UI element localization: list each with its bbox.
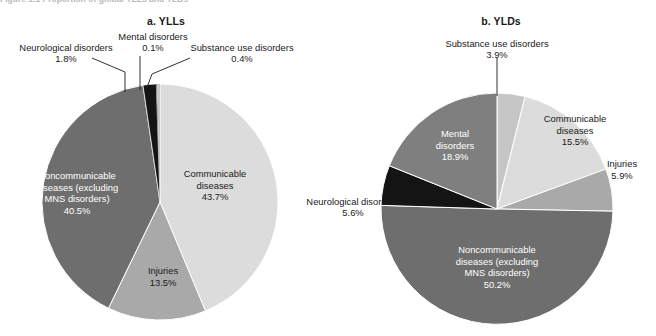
slice-label-line: Injuries [118,265,208,277]
slice-label-line: diseases (excluding [14,182,140,194]
slice-label-line: 18.9% [417,151,493,163]
callout-line: 1.8% [2,53,130,64]
slice-label-line: disorders [417,140,493,152]
callout-line: Substance use disorders [430,38,564,49]
slice-label-line: diseases [523,125,627,137]
slice-label-yld-mental: Mental disorders 18.9% [417,128,493,163]
callout-line: 3.9% [430,49,564,60]
panel-a-title: a. YLLs [96,15,236,27]
callout-line: Mental disorders [109,31,197,42]
slice-label-line: Communicable [160,168,270,180]
figure-caption-clipped: Figure 1.1 Proportion of global YLLs and… [0,0,430,4]
callout-line: Substance use disorders [176,42,308,53]
slice-label-line: 13.5% [118,277,208,289]
slice-label-line: Noncommunicable [434,244,560,256]
slice-label-line: 5.9% [592,170,652,182]
slice-label-line: 43.7% [160,191,270,203]
callout-line: 0.4% [176,53,308,64]
slice-label-yld-injuries: Injuries 5.9% [592,158,652,181]
slice-label-line: Noncommunicable [14,170,140,182]
slice-label-yll-injuries: Injuries 13.5% [118,265,208,288]
callout-yld-substance: Substance use disorders 3.9% [430,38,564,61]
slice-label-yll-noncommunicable: Noncommunicable diseases (excluding MNS … [14,170,140,216]
slice-label-line: Communicable [523,113,627,125]
callout-yll-substance: Substance use disorders 0.4% [176,42,308,65]
slice-label-line: Injuries [592,158,652,170]
slice-label-yld-communicable: Communicable diseases 15.5% [523,113,627,148]
panel-b-title: b. YLDs [446,15,556,27]
slice-label-line: diseases (excluding [434,256,560,268]
callout-line: Neurological disorders [289,196,417,207]
slice-label-yll-communicable: Communicable diseases 43.7% [160,168,270,203]
slice-label-line: Mental [417,128,493,140]
slice-label-line: diseases [160,180,270,192]
slice-label-line: 15.5% [523,136,627,148]
slice-label-line: MNS disorders) [434,267,560,279]
slice-label-line: MNS disorders) [14,193,140,205]
callout-yld-neurological: Neurological disorders 5.6% [289,196,417,219]
slice-label-yld-noncommunicable: Noncommunicable diseases (excluding MNS … [434,244,560,290]
slice-label-line: 40.5% [14,205,140,217]
slice-label-line: 50.2% [434,279,560,291]
callout-line: 5.6% [289,207,417,218]
figure-root: Figure 1.1 Proportion of global YLLs and… [0,0,656,336]
